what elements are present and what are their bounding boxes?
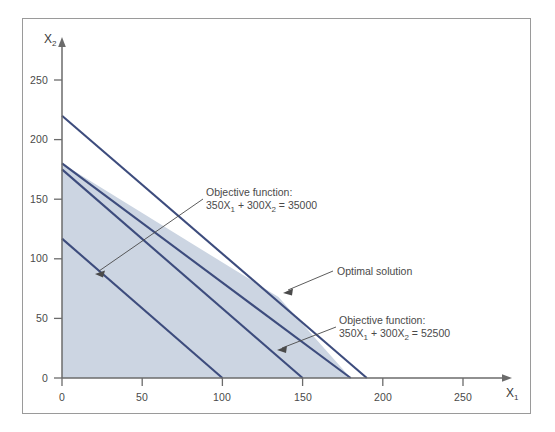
- y-axis-title: X2: [44, 32, 56, 48]
- annotation-objective-35000-line1: Objective function:: [206, 186, 317, 199]
- annotation-optimal-solution-label: Optimal solution: [337, 265, 412, 277]
- x-tick-label-100: 100: [202, 391, 242, 403]
- y-tick-label-100: 100: [16, 252, 48, 264]
- x-axis-title-text: X: [506, 386, 514, 400]
- y-tick-label-150: 150: [16, 193, 48, 205]
- x-tick-label-0: 0: [42, 391, 82, 403]
- y-axis-arrow-icon: [58, 37, 66, 47]
- y-tick-label-200: 200: [16, 133, 48, 145]
- annotation-objective-52500: Objective function: 350X1 + 300X2 = 5250…: [339, 314, 450, 344]
- x-axis-arrow-icon: [502, 374, 512, 382]
- annotation-objective-52500-line2: 350X1 + 300X2 = 52500: [339, 327, 450, 344]
- annotation-objective-35000: Objective function: 350X1 + 300X2 = 3500…: [206, 186, 317, 216]
- leader-line-optimal: [288, 271, 333, 290]
- x-tick-label-250: 250: [443, 391, 483, 403]
- x-tick-label-200: 200: [363, 391, 403, 403]
- y-axis-title-sub: 2: [52, 39, 56, 48]
- obj35000-mid: + 300X: [235, 199, 272, 211]
- y-tick-marks: [54, 80, 62, 378]
- y-tick-label-0: 0: [16, 372, 48, 384]
- obj35000-post: = 35000: [276, 199, 317, 211]
- obj52500-post: = 52500: [409, 327, 450, 339]
- annotation-objective-35000-line2: 350X1 + 300X2 = 35000: [206, 199, 317, 216]
- y-tick-label-250: 250: [16, 74, 48, 86]
- linear-programming-figure: 0 50 100 150 200 250 0 50 100 150 200 25…: [0, 0, 555, 432]
- y-axis-title-text: X: [44, 32, 52, 46]
- x-tick-label-50: 50: [122, 391, 162, 403]
- y-tick-label-50: 50: [16, 312, 48, 324]
- x-tick-marks: [62, 378, 463, 386]
- annotation-optimal-solution: Optimal solution: [337, 265, 412, 278]
- obj52500-mid: + 300X: [368, 327, 405, 339]
- obj52500-pre: 350X: [339, 327, 364, 339]
- obj35000-pre: 350X: [206, 199, 231, 211]
- annotation-objective-52500-line1: Objective function:: [339, 314, 450, 327]
- x-tick-label-150: 150: [283, 391, 323, 403]
- x-axis-title: X1: [506, 386, 518, 402]
- x-axis-title-sub: 1: [514, 393, 518, 402]
